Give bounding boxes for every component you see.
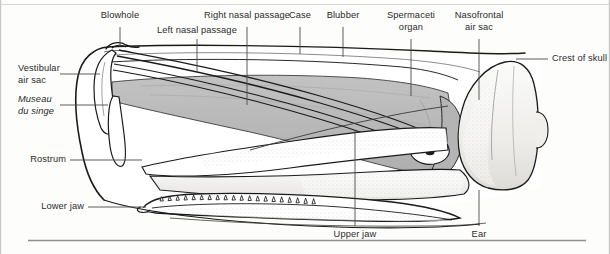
label-nasofrontal-air-sac: Nasofrontal air sac	[444, 10, 514, 33]
label-spermaceti-organ-line2: organ	[399, 22, 423, 32]
label-museau-du-singe-line2: du singe	[18, 106, 54, 116]
whale-anatomy-illustration	[0, 0, 610, 254]
skull-crest-notch	[536, 112, 548, 148]
label-nasofrontal-air-sac-line2: air sac	[465, 22, 493, 32]
whale-anatomy-figure: Blowhole Left nasal passage Right nasal …	[0, 0, 610, 254]
label-spermaceti-organ: Spermaceti organ	[376, 10, 446, 33]
label-spermaceti-organ-line1: Spermaceti	[387, 10, 435, 20]
label-left-nasal-passage: Left nasal passage	[137, 25, 257, 37]
label-ear: Ear	[459, 229, 499, 241]
label-nasofrontal-air-sac-line1: Nasofrontal	[455, 10, 504, 20]
upper-jaw-shading	[300, 173, 464, 197]
label-blowhole: Blowhole	[84, 10, 156, 22]
label-lower-jaw: Lower jaw	[0, 201, 84, 213]
label-museau-du-singe-line1: Museau	[18, 94, 52, 104]
label-blubber: Blubber	[313, 10, 373, 22]
label-vestibular-air-sac-line2: air sac	[18, 75, 46, 85]
label-upper-jaw: Upper jaw	[320, 229, 390, 241]
label-crest-of-skull: Crest of skull	[552, 53, 607, 65]
label-vestibular-air-sac-line1: Vestibular	[18, 63, 60, 73]
label-museau-du-singe: Museau du singe	[18, 94, 54, 117]
label-rostrum: Rostrum	[0, 154, 66, 166]
label-vestibular-air-sac: Vestibular air sac	[18, 63, 60, 86]
